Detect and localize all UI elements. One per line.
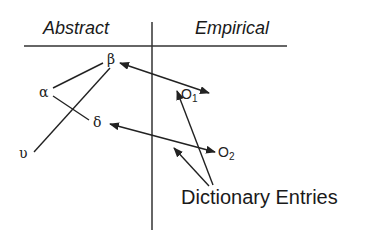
node-upsilon: υ (19, 146, 28, 160)
arrow-dictionary-to-O2-region (174, 148, 209, 186)
edge-upsilon-beta (34, 68, 110, 152)
node-O1-label: O (181, 86, 192, 102)
node-O1: O1 (181, 87, 197, 104)
header-empirical: Empirical (195, 19, 269, 37)
abstract-empirical-diagram: Abstract Empirical β α δ υ O1 O2 Diction… (0, 0, 372, 239)
node-O2: O2 (218, 145, 234, 162)
node-delta: δ (93, 115, 101, 129)
node-beta: β (107, 52, 115, 66)
node-O2-subscript: 2 (229, 151, 235, 162)
node-O2-label: O (218, 144, 229, 160)
node-alpha: α (39, 85, 48, 99)
edge-alpha-delta (53, 96, 89, 120)
caption-dictionary-entries: Dictionary Entries (181, 187, 338, 207)
header-abstract: Abstract (43, 19, 109, 37)
node-O1-subscript: 1 (192, 93, 198, 104)
